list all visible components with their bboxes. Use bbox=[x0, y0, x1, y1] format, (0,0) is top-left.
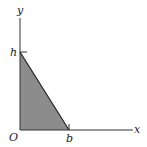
origin-label: O bbox=[9, 131, 18, 144]
diagram-canvas: y x O h b bbox=[0, 0, 147, 147]
y-axis-label: y bbox=[16, 4, 24, 17]
b-label: b bbox=[66, 132, 73, 145]
x-axis-label: x bbox=[134, 123, 141, 136]
diagram-svg: y x O h b bbox=[0, 0, 147, 147]
h-label: h bbox=[10, 46, 17, 59]
